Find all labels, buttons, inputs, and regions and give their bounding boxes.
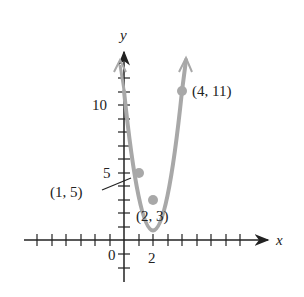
- x-axis: [24, 234, 268, 246]
- point-1-5: [134, 168, 144, 178]
- point-4-11: [177, 86, 187, 96]
- y-axis-label: y: [118, 27, 127, 43]
- x-axis-label: x: [275, 232, 283, 248]
- point-2-3-label: (2, 3): [136, 208, 169, 225]
- point-2-3: [148, 195, 158, 205]
- parabola-curve: [124, 60, 186, 231]
- x-tick-2-label: 2: [148, 250, 156, 266]
- y-tick-10-label: 10: [92, 97, 107, 113]
- point-4-11-label: (4, 11): [192, 83, 231, 100]
- y-tick-5-label: 5: [103, 165, 111, 181]
- point-1-5-label: (1, 5): [50, 184, 83, 201]
- origin-label: 0: [108, 247, 116, 263]
- graph: y x 0 2 5 10 (1, 5) (2, 3) (4, 11): [0, 0, 304, 297]
